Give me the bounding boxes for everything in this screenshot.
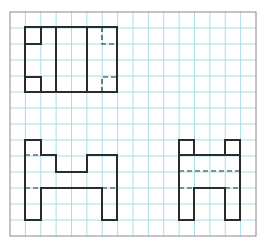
- orthographic-drawing: [0, 0, 267, 251]
- drawing-canvas: [0, 0, 267, 251]
